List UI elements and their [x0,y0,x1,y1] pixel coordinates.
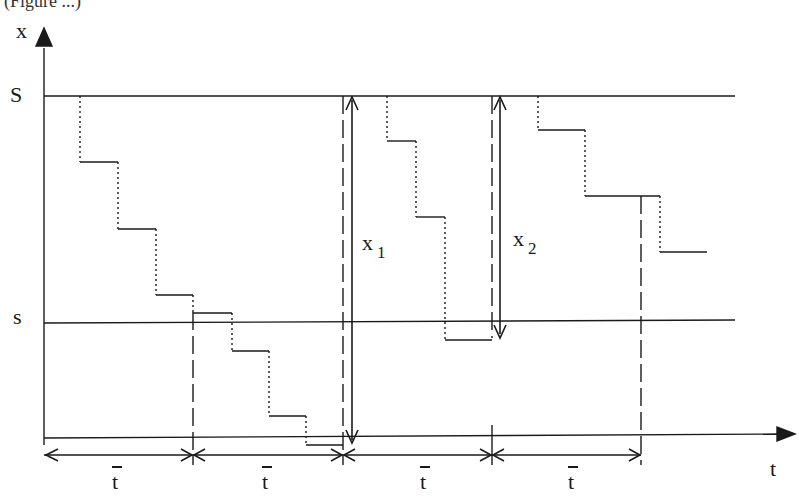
level-s-label: s [13,306,22,328]
y-axis-label: x [16,20,27,42]
level-s-line [44,320,735,323]
inventory-steps-3 [538,96,707,252]
order-qty-1-symbol: x [362,230,373,255]
inventory-diagram [0,0,799,501]
y-axis-arrow-icon [36,28,52,46]
order-qty-2-label: x2 [513,228,537,250]
order-qty-2-subscript: 2 [528,239,537,258]
order-qty-1-subscript: 1 [377,243,386,262]
period-label-3: t [420,466,430,493]
order-qty-2-symbol: x [513,226,524,251]
time-axis [44,434,780,438]
period-label-1: t [112,466,122,493]
inventory-steps-1 [80,96,343,445]
t-axis-arrow-icon [777,427,795,441]
inventory-steps-2 [387,96,492,340]
level-S-label: S [10,84,22,106]
period-label-2: t [262,466,272,493]
x-axis-label: t [770,458,776,480]
order-qty-1-label: x1 [362,232,386,254]
period-label-4: t [568,466,578,493]
